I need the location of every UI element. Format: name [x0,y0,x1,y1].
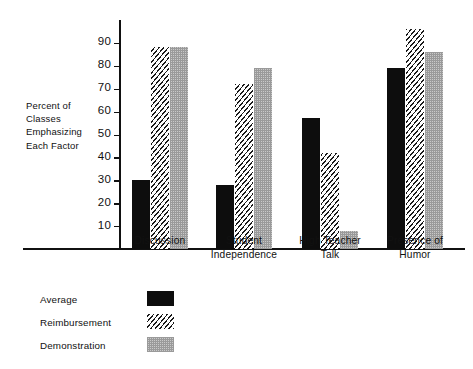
legend-label-demonstration: Demonstration [40,340,106,351]
bar-demonstration-0 [170,47,188,249]
bar-demonstration-3 [425,52,443,249]
y-tick-mark [114,43,121,44]
y-tick-mark [114,112,121,113]
legend-swatch-demonstration-icon [147,337,174,352]
bar-average-3 [387,68,405,249]
x-axis-label-line: Presence of [360,234,470,248]
bar-average-2 [302,118,320,249]
x-axis-label-line: Humor [360,248,470,262]
chart-legend: Average Reimbursement Demonstration [40,291,230,360]
legend-item-demonstration: Demonstration [40,337,230,360]
y-tick-label: 40 [98,150,111,162]
y-tick-label: 10 [98,219,111,231]
y-tick-label: 80 [98,58,111,70]
y-tick-label: 50 [98,127,111,139]
y-tick-mark [114,135,121,136]
bar-demonstration-1 [254,68,272,249]
y-tick-mark [114,203,121,204]
legend-item-reimbursement: Reimbursement [40,314,230,337]
legend-label-reimbursement: Reimbursement [40,317,111,328]
y-tick-mark [114,157,121,158]
x-axis-label-3: Presence ofHumor [360,234,470,261]
y-tick-label: 60 [98,104,111,116]
y-tick-label: 90 [98,35,111,47]
legend-item-average: Average [40,291,230,314]
legend-label-average: Average [40,294,77,305]
y-tick-label: 20 [98,196,111,208]
bar-reimbursement-1 [235,84,253,249]
y-tick-mark [114,226,121,227]
y-tick-label: 70 [98,81,111,93]
y-tick-mark [114,180,121,181]
bar-chart-figure: Percent of Classes Emphasizing Each Fact… [0,0,473,369]
bar-reimbursement-3 [406,29,424,249]
y-tick-mark [114,66,121,67]
bar-reimbursement-0 [151,47,169,249]
legend-swatch-reimbursement-icon [147,314,174,329]
legend-swatch-average-icon [147,291,174,306]
y-tick-mark [114,89,121,90]
plot-area: 102030405060708090 [119,20,465,249]
y-tick-label: 30 [98,173,111,185]
